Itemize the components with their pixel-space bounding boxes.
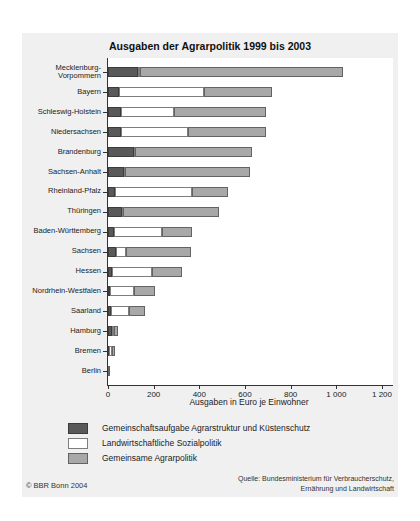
bar-segment-dark [108,107,121,117]
legend-label: Gemeinsame Agrarpolitik [102,453,197,463]
bar-segment-dark [108,127,121,137]
bar-segment-white [121,127,188,137]
y-tick [103,371,107,372]
x-tick [199,385,200,389]
x-tick [108,385,109,389]
legend-label: Gemeinschaftsaufgabe Agrarstruktur und K… [102,423,310,433]
legend-label: Landwirtschaftliche Sozialpolitik [102,438,222,448]
bar-segment-gray [204,87,273,97]
category-label: Hamburg [22,321,101,341]
bar-segment-gray [112,346,115,356]
category-label: Niedersachsen [22,122,101,142]
bar-segment-gray [188,127,266,137]
bar-segment-white [112,267,152,277]
bar-segment-gray [114,326,118,336]
category-label: Brandenburg [22,142,101,162]
y-tick [103,112,107,113]
bar-segment-gray [126,247,191,257]
y-tick [103,291,107,292]
x-tick [291,385,292,389]
bar-segment-white [121,107,175,117]
bar-segment-gray [135,147,251,157]
source-text: Quelle: Bundesministerium für Verbrauche… [238,474,394,494]
legend-item: Landwirtschaftliche Sozialpolitik [68,437,310,449]
y-tick [103,152,107,153]
category-label: Bayern [22,82,101,102]
copyright-text: © BBR Bonn 2004 [26,481,87,490]
bar-segment-dark [108,187,115,197]
bar-segment-white [116,247,126,257]
bar-segment-gray [192,187,227,197]
bar-segment-white [110,286,134,296]
category-label: Hessen [22,262,101,282]
legend-swatch-dark [68,423,88,434]
bar-segment-dark [108,247,116,257]
y-tick [103,351,107,352]
bar-segment-gray [129,306,145,316]
category-label: Baden-Württemberg [22,222,101,242]
category-label: Thüringen [22,202,101,222]
category-label: Sachsen [22,242,101,262]
bar-segment-white [114,227,162,237]
category-label: Sachsen-Anhalt [22,162,101,182]
bar-segment-gray [123,207,219,217]
source-line-1: Quelle: Bundesministerium für Verbrauche… [238,474,394,484]
y-tick [103,132,107,133]
legend-item: Gemeinsame Agrarpolitik [68,452,310,464]
y-tick [103,172,107,173]
legend: Gemeinschaftsaufgabe Agrarstruktur und K… [68,422,310,467]
bar-segment-white [115,187,193,197]
bar-segment-gray [152,267,182,277]
x-axis-title: Ausgaben in Euro je Einwohner [108,397,390,407]
bar-segment-white [111,306,129,316]
bar-segment-gray [174,107,265,117]
bar-segment-dark [108,67,138,77]
y-tick [103,232,107,233]
x-axis [107,385,393,386]
bar-segment-white [119,87,203,97]
bar-segment-gray [134,286,155,296]
category-label: Schleswig-Holstein [22,102,101,122]
category-label: Bremen [22,341,101,361]
bar-segment-gray [125,167,249,177]
bar-segment-gray [140,67,343,77]
category-label: Mecklenburg-Vorpommern [22,62,101,82]
category-label: Nordrhein-Westfalen [22,281,101,301]
category-label: Saarland [22,301,101,321]
y-tick [103,311,107,312]
legend-item: Gemeinschaftsaufgabe Agrarstruktur und K… [68,422,310,434]
y-tick [103,212,107,213]
x-tick [382,385,383,389]
y-tick [103,331,107,332]
bar-segment-dark [108,87,119,97]
bar-segment-gray [108,366,110,376]
bar-segment-dark [108,207,122,217]
y-tick [103,192,107,193]
legend-swatch-gray [68,453,88,464]
legend-swatch-white [68,438,88,449]
chart-panel: Ausgaben der Agrarpolitik 1999 bis 2003 … [22,33,398,497]
category-label: Rheinland-Pfalz [22,182,101,202]
y-tick [103,252,107,253]
y-tick [103,92,107,93]
x-tick [154,385,155,389]
bar-segment-dark [108,147,134,157]
bar-segment-dark [108,167,124,177]
y-tick [103,72,107,73]
source-line-2: Ernährung und Landwirtschaft [238,484,394,494]
bar-segment-gray [162,227,193,237]
x-tick [336,385,337,389]
x-tick [245,385,246,389]
y-tick [103,272,107,273]
category-label: Berlin [22,361,101,381]
